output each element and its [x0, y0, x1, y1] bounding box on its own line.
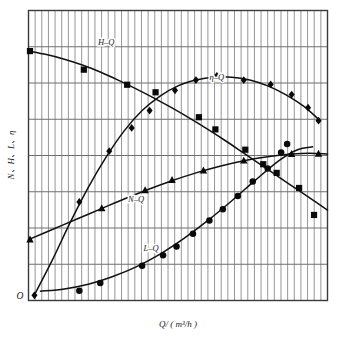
- data-point-marker-circle: [249, 178, 256, 185]
- data-point-marker-diamond: [31, 291, 37, 299]
- curve-label-η–Q: η–Q: [210, 72, 225, 82]
- data-point-marker-triangle: [26, 236, 33, 243]
- curve-label-L–Q: L–Q: [143, 243, 159, 253]
- curve-3: [29, 153, 328, 239]
- x-axis-label: Q/ ( m³/h ): [159, 319, 197, 329]
- data-point-marker-square: [296, 185, 302, 191]
- data-point-marker-circle: [160, 252, 167, 259]
- data-point-marker-circle: [235, 193, 242, 200]
- data-point-marker-square: [81, 67, 87, 73]
- data-point-marker-circle: [220, 206, 227, 213]
- pump-performance-chart: H–QH–Qη–Qη–QN–QN–QL–QL–Q Q/ ( m³/h ) N、H…: [0, 0, 355, 342]
- data-point-marker-circle: [97, 280, 104, 287]
- chart-canvas: H–QH–Qη–Qη–QN–QN–QL–QL–Q Q/ ( m³/h ) N、H…: [0, 0, 355, 342]
- data-point-marker-square: [196, 114, 202, 120]
- series-curves: [29, 51, 328, 295]
- data-point-marker-square: [152, 89, 158, 95]
- curve-labels: H–QH–Qη–Qη–QN–QN–QL–QL–Q: [97, 37, 224, 253]
- data-point-marker-circle: [190, 231, 197, 238]
- data-point-marker-diamond: [305, 104, 311, 112]
- data-point-marker-square: [27, 48, 33, 54]
- data-point-marker-square: [311, 212, 317, 218]
- data-point-marker-square: [274, 170, 280, 176]
- origin-label: O: [17, 291, 24, 301]
- curve-label-H–Q: H–Q: [97, 37, 115, 47]
- data-point-marker-circle: [139, 262, 146, 269]
- data-point-marker-circle: [264, 165, 271, 172]
- y-axis-label: N、H、L、η: [6, 130, 16, 181]
- data-point-marker-square: [242, 147, 248, 153]
- curve-1: [29, 51, 328, 210]
- data-point-marker-diamond: [147, 107, 153, 115]
- data-point-marker-square: [124, 82, 130, 88]
- data-point-marker-circle: [173, 243, 180, 250]
- data-point-marker-circle: [278, 149, 285, 156]
- data-point-marker-circle: [206, 217, 213, 224]
- curve-label-N–Q: N–Q: [127, 194, 144, 204]
- data-point-marker-circle: [284, 141, 291, 148]
- data-point-marker-square: [212, 126, 218, 132]
- curve-2: [34, 77, 318, 295]
- data-point-marker-circle: [76, 287, 83, 294]
- data-point-marker-diamond: [268, 81, 274, 89]
